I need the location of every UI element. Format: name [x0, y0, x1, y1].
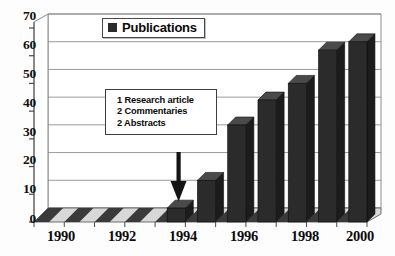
bar-1995 [197, 172, 223, 222]
x-tick-1998: 1998 [291, 228, 319, 245]
bar-2000 [349, 34, 375, 222]
left-depth-wall [34, 14, 48, 222]
x-tick-1992: 1992 [108, 228, 136, 245]
chart-legend: Publications [102, 18, 205, 38]
bar-1999 [319, 42, 345, 222]
y-tick-30: 30 [2, 124, 36, 140]
callout-line-research-article: 1 Research article [117, 95, 212, 106]
bar-1996 [228, 117, 254, 222]
legend-swatch-icon [108, 23, 117, 32]
y-tick-0: 0 [2, 211, 36, 227]
y-tick-50: 50 [2, 66, 36, 82]
y-axis-labels: 70 60 50 40 30 20 10 0 [0, 0, 36, 256]
x-tick-2000: 2000 [346, 228, 374, 245]
y-tick-10: 10 [2, 181, 36, 197]
bar-chart-publications-by-year: 70 60 50 40 30 20 10 0 1990 1992 1994 19… [0, 0, 395, 256]
annotation-callout-1994: 1 Research article 2 Commentaries 2 Abst… [105, 89, 217, 135]
legend-label-publications: Publications [122, 20, 197, 35]
y-tick-60: 60 [2, 37, 36, 53]
y-tick-70: 70 [2, 8, 36, 24]
x-tick-1990: 1990 [47, 228, 75, 245]
callout-line-commentaries: 2 Commentaries [117, 106, 212, 117]
x-axis-labels: 1990 1992 1994 1996 1998 2000 [0, 228, 395, 254]
y-tick-40: 40 [2, 95, 36, 111]
x-tick-1994: 1994 [169, 228, 197, 245]
x-axis-ticks [34, 222, 367, 227]
y-tick-20: 20 [2, 152, 36, 168]
x-tick-1996: 1996 [230, 228, 258, 245]
bar-1998 [288, 75, 314, 222]
bar-1997 [258, 92, 284, 222]
callout-line-abstracts: 2 Abstracts [117, 118, 212, 129]
